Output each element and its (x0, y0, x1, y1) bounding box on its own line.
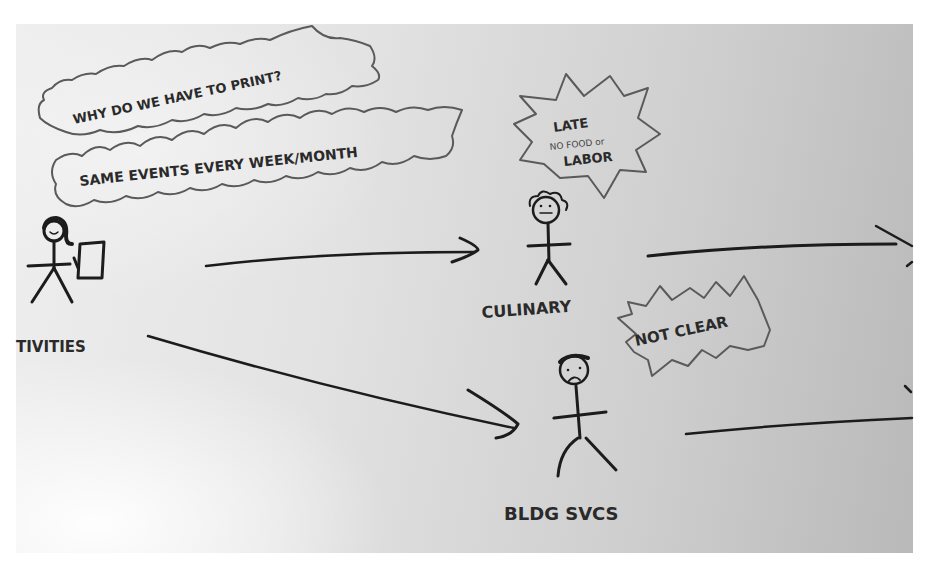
arms (28, 264, 70, 266)
bubble-text: SAME EVENTS EVERY WEEK/MONTH (79, 144, 359, 189)
actor-activities: TIVITIES (16, 218, 104, 356)
arrow-bldgsvcs-to-next (686, 386, 912, 434)
left-leg (536, 260, 548, 284)
frown (568, 377, 580, 382)
arrowhead-icon (452, 238, 478, 262)
bubble-late: LATE NO FOOD or LABOR (514, 74, 660, 198)
arrow-activities-to-bldgsvcs (148, 336, 518, 438)
starburst-bubble-outline (514, 74, 660, 198)
actor-culinary: CULINARY (481, 191, 572, 322)
head (533, 197, 559, 223)
eye (540, 205, 543, 208)
sketch-canvas: WHY DO WE HAVE TO PRINT? SAME EVENTS EVE… (0, 0, 932, 563)
arms (554, 412, 606, 418)
actor-label: TIVITIES (16, 338, 86, 356)
left-leg (32, 268, 54, 302)
body (576, 386, 580, 438)
arrow-line (648, 244, 896, 256)
arms (528, 244, 570, 246)
right-leg (548, 260, 566, 284)
bubble-not-clear: NOT CLEAR (618, 276, 770, 376)
bubble-text: WHY DO WE HAVE TO PRINT? (72, 68, 283, 127)
eye (567, 369, 570, 372)
actor-bldgsvcs: BLDG SVCS (504, 356, 619, 524)
left-leg (558, 438, 578, 476)
right-leg (586, 438, 616, 470)
hand (74, 258, 78, 268)
smile (50, 232, 58, 234)
eye (579, 367, 582, 370)
body (548, 223, 549, 262)
bubble-line-3: LABOR (563, 149, 614, 169)
right-leg (54, 268, 72, 302)
eye (549, 205, 552, 208)
bubble-text: NOT CLEAR (633, 313, 730, 350)
arrow-line (148, 336, 514, 428)
bubble-line-1: LATE (552, 115, 589, 135)
arrow-activities-to-culinary (206, 238, 478, 266)
arrowhead-icon (468, 390, 518, 438)
actor-label: BLDG SVCS (504, 503, 619, 524)
actor-label: CULINARY (481, 297, 572, 322)
bubble-same-events: SAME EVENTS EVERY WEEK/MONTH (52, 107, 462, 206)
arrowhead-icon (905, 386, 911, 392)
arrow-line (686, 418, 912, 434)
arrow-culinary-to-next (648, 226, 912, 266)
bubble-why-print: WHY DO WE HAVE TO PRINT? (39, 26, 379, 135)
paper-sheet-icon (78, 242, 104, 278)
arrow-line (206, 252, 474, 266)
arrowhead-icon (907, 262, 912, 266)
